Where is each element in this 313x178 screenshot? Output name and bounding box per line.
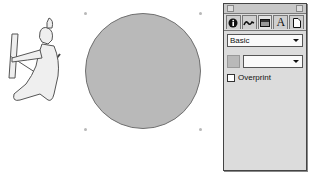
tab-stroke[interactable] [242, 15, 257, 29]
inspector-tabs: A [224, 14, 306, 31]
tab-document[interactable] [289, 15, 304, 29]
fill-type-value: Basic [230, 36, 250, 45]
selection-handle[interactable] [84, 128, 87, 131]
document-icon [293, 18, 301, 28]
circle-shape[interactable] [85, 13, 201, 129]
collapse-icon[interactable] [296, 5, 303, 12]
color-row [227, 55, 303, 68]
chevron-down-icon [293, 60, 299, 63]
stroke-icon [243, 19, 255, 27]
text-icon: A [276, 15, 285, 30]
overprint-label: Overprint [238, 73, 271, 82]
fill-type-dropdown[interactable]: Basic [227, 34, 303, 47]
archer-figure[interactable] [2, 14, 64, 106]
color-dropdown[interactable] [243, 55, 303, 68]
selection-handle[interactable] [199, 128, 202, 131]
fill-icon [260, 19, 270, 27]
selection-handle[interactable] [199, 12, 202, 15]
object-inspector-panel: A Basic Overprint [223, 3, 307, 171]
close-icon[interactable] [227, 5, 234, 12]
tab-info[interactable] [226, 15, 241, 29]
tab-fill[interactable] [258, 15, 273, 29]
panel-titlebar[interactable] [224, 4, 306, 14]
overprint-checkbox[interactable] [227, 74, 235, 82]
chevron-down-icon [293, 39, 299, 42]
overprint-checkbox-row[interactable]: Overprint [227, 73, 303, 82]
tab-text[interactable]: A [273, 15, 288, 29]
selection-handle[interactable] [84, 12, 87, 15]
info-icon [228, 18, 238, 28]
color-swatch[interactable] [227, 55, 240, 68]
